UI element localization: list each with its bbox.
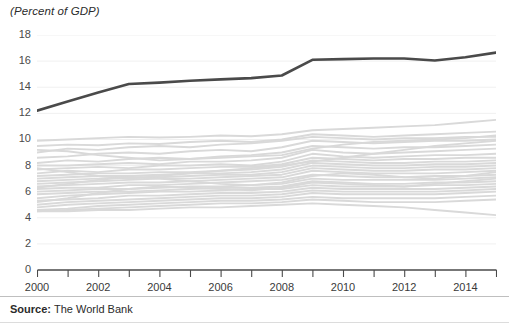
source-divider [0, 296, 509, 297]
x-axis-tick-label: 2006 [208, 282, 232, 293]
y-axis-tick-labels: 024681012141618 [0, 35, 31, 270]
bottom-border [0, 322, 509, 323]
x-axis-tick-label: 2010 [331, 282, 355, 293]
y-axis-tick-label: 6 [25, 186, 31, 197]
background-series-lines [37, 120, 496, 215]
x-axis-tick-label: 2004 [147, 282, 171, 293]
x-axis-tick-label: 2008 [270, 282, 294, 293]
y-axis-tick-label: 8 [25, 160, 31, 171]
source-row: Source: The World Bank [10, 303, 133, 315]
y-axis-tick-label: 2 [25, 238, 31, 249]
x-axis [37, 269, 497, 279]
x-axis-tick-label: 2014 [453, 282, 477, 293]
y-axis-tick-label: 10 [19, 133, 31, 144]
y-axis-tick-label: 0 [25, 264, 31, 275]
y-axis-tick-label: 4 [25, 212, 31, 223]
x-axis-tick-label: 2002 [86, 282, 110, 293]
chart-figure: (Percent of GDP) 024681012141618 2000200… [0, 0, 509, 329]
y-axis-tick-label: 18 [19, 29, 31, 40]
x-axis-tick-label: 2000 [25, 282, 49, 293]
y-axis-tick-label: 12 [19, 107, 31, 118]
plot-svg [37, 35, 496, 270]
source-label: Source: [10, 303, 51, 315]
y-axis-tick-label: 16 [19, 55, 31, 66]
chart-title: (Percent of GDP) [10, 5, 100, 17]
source-value: The World Bank [54, 303, 133, 315]
x-axis-tick-label: 2012 [392, 282, 416, 293]
y-axis-tick-label: 14 [19, 81, 31, 92]
plot-area [37, 35, 496, 270]
